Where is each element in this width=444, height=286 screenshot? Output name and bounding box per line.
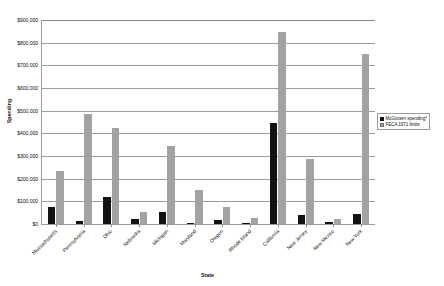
x-axis-category-label: Michigan (151, 228, 169, 246)
chart-legend: McGovern spending*FECA 1971 limits (377, 113, 430, 130)
x-label-slot: New Mexico (319, 226, 347, 272)
bar (362, 54, 370, 224)
bar (270, 123, 278, 224)
bar (56, 171, 64, 224)
x-label-slot: California (263, 226, 291, 272)
bar-group (320, 20, 348, 224)
bar (334, 219, 342, 224)
bar-group (236, 20, 264, 224)
y-axis-title: Spending (6, 81, 12, 141)
x-axis-category-label: Nebraska (122, 228, 141, 247)
bar-group (292, 20, 320, 224)
x-label-slot: Nebraska (124, 226, 152, 272)
bar (48, 207, 56, 224)
bar-group (181, 20, 209, 224)
x-axis-category-label: Oregon (209, 228, 225, 244)
bar (278, 32, 286, 224)
bar (187, 223, 195, 224)
bar-group (125, 20, 153, 224)
x-axis-category-label: New York (344, 228, 363, 247)
y-axis-tick-labels: $900,000$800,000$700,000$600,000$500,000… (0, 0, 38, 286)
x-label-slot: Ohio (97, 226, 125, 272)
bar (131, 219, 139, 224)
bar (103, 197, 111, 224)
bar (306, 159, 314, 224)
bar (84, 114, 92, 224)
legend-label: FECA 1971 limits (386, 122, 420, 127)
bar-chart: $900,000$800,000$700,000$600,000$500,000… (0, 0, 444, 286)
bar (195, 190, 203, 224)
y-axis-tick-label: $0 (6, 221, 38, 227)
bar-group (98, 20, 126, 224)
bar-group (347, 20, 375, 224)
legend-swatch-icon (380, 123, 384, 127)
bar (140, 212, 148, 224)
x-label-slot: Pennsylvania (69, 226, 97, 272)
x-axis-category-label: Maryland (178, 228, 197, 247)
x-axis-category-label: Ohio (102, 228, 114, 240)
bar (353, 214, 361, 224)
bar (159, 212, 167, 224)
x-axis-category-labels: MassachusettsPennsylvaniaOhioNebraskaMic… (41, 226, 374, 272)
x-label-slot: Rhode Island (235, 226, 263, 272)
legend-item: McGovern spending* (380, 116, 427, 121)
legend-label: McGovern spending* (386, 116, 427, 121)
bar (251, 218, 259, 224)
x-label-slot: Michigan (152, 226, 180, 272)
plot-area (41, 20, 375, 225)
y-axis-tick-label: $900,000 (6, 17, 38, 23)
bar-group (153, 20, 181, 224)
legend-item: FECA 1971 limits (380, 122, 427, 127)
y-axis-tick-label: $200,000 (6, 176, 38, 182)
x-axis-title: State (41, 272, 374, 278)
bar (298, 215, 306, 224)
legend-swatch-icon (380, 117, 384, 121)
x-axis-category-label: California (261, 228, 280, 247)
y-axis-tick-label: $700,000 (6, 62, 38, 68)
bar-group (42, 20, 70, 224)
bar (76, 221, 84, 224)
bars-layer (42, 20, 375, 224)
bar-group (264, 20, 292, 224)
bar (167, 146, 175, 224)
bar-group (70, 20, 98, 224)
y-axis-tick-label: $800,000 (6, 40, 38, 46)
bar-group (209, 20, 237, 224)
bar (112, 128, 120, 224)
bar (242, 223, 250, 224)
bar (214, 220, 222, 224)
bar (223, 207, 231, 224)
bar (325, 222, 333, 224)
y-axis-tick-label: $300,000 (6, 153, 38, 159)
x-label-slot: New York (346, 226, 374, 272)
y-axis-tick-label: $100,000 (6, 198, 38, 204)
x-label-slot: Maryland (180, 226, 208, 272)
